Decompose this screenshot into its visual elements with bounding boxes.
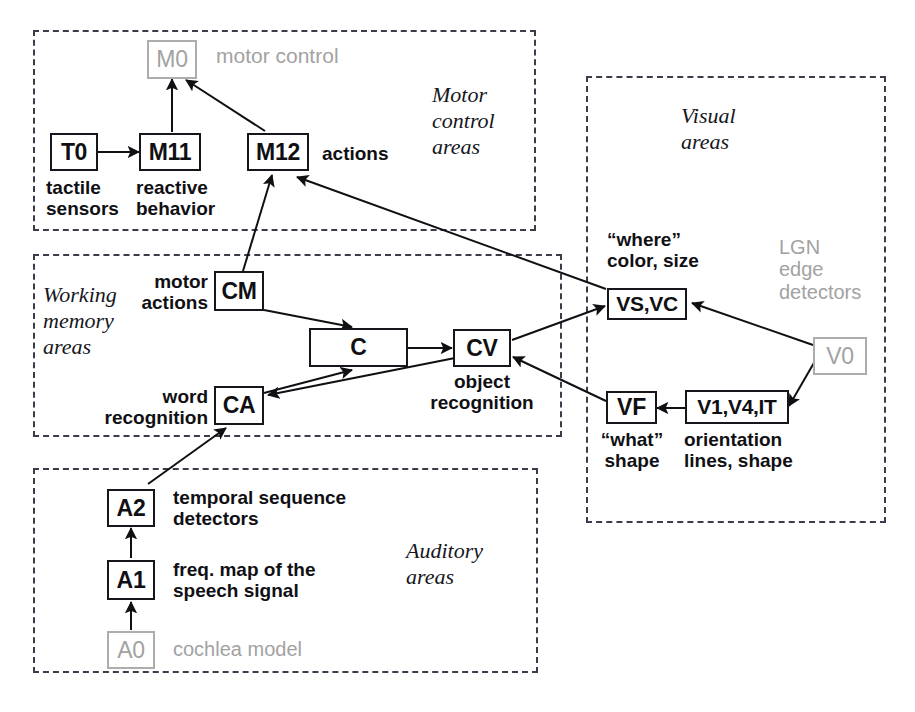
node-M12[interactable]: M12: [247, 133, 309, 171]
caption-motor-actions: motor actions: [94, 271, 208, 314]
node-M0[interactable]: M0: [147, 40, 197, 79]
node-A0[interactable]: A0: [107, 631, 155, 669]
caption-temporal-sequence-detectors: temporal sequence detectors: [173, 487, 346, 530]
node-CM[interactable]: CM: [214, 271, 264, 311]
caption-freq-map-speech-signal: freq. map of the speech signal: [173, 559, 316, 602]
node-CV[interactable]: CV: [453, 329, 511, 367]
caption-actions: actions: [322, 143, 389, 164]
caption-motor-control: motor control: [216, 44, 339, 68]
diagram-canvas: Motor control areas Working memory areas…: [0, 0, 915, 712]
caption-tactile-sensors: tactile sensors: [46, 177, 119, 220]
group-label-visual-areas: Visual areas: [681, 103, 736, 155]
node-V1-V4-IT[interactable]: V1,V4,IT: [685, 390, 789, 424]
node-VF[interactable]: VF: [606, 391, 657, 424]
node-CA[interactable]: CA: [214, 386, 264, 425]
node-T0[interactable]: T0: [50, 133, 98, 171]
caption-cochlea-model: cochlea model: [173, 638, 302, 660]
node-M11[interactable]: M11: [139, 133, 201, 171]
node-VS-VC[interactable]: VS,VC: [607, 288, 687, 320]
caption-orientation-lines-shape: orientation lines, shape: [684, 429, 793, 472]
group-label-motor-control-areas: Motor control areas: [432, 82, 495, 160]
node-A1[interactable]: A1: [107, 560, 155, 600]
group-label-auditory-areas: Auditory areas: [406, 538, 483, 590]
caption-reactive-behavior: reactive behavior: [136, 177, 215, 220]
node-C[interactable]: C: [309, 328, 408, 367]
caption-what-shape: “what” shape: [594, 429, 670, 472]
caption-object-recognition: object recognition: [422, 371, 542, 414]
node-V0[interactable]: V0: [813, 337, 867, 375]
node-A2[interactable]: A2: [107, 489, 155, 527]
caption-where-color-size: “where” color, size: [607, 229, 699, 272]
caption-word-recognition: word recognition: [58, 386, 208, 429]
caption-lgn-edge-detectors: LGN edge detectors: [779, 236, 861, 303]
